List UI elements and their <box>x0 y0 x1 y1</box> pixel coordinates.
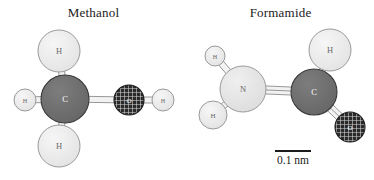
atom-h-f-h2: H <box>199 101 227 129</box>
scale-bar-label: 0.1 nm <box>258 154 328 167</box>
atom-o-f-o: O <box>335 112 365 142</box>
atom-label-m-o: O <box>126 97 131 105</box>
atom-label-f-o: O <box>347 124 352 132</box>
atom-label-f-h3: H <box>327 45 333 55</box>
atom-layer: CHHHOHNCOHHH <box>14 29 365 167</box>
atom-label-m-h2: H <box>56 141 62 151</box>
scale-bar: 0.1 nm <box>258 150 328 167</box>
atom-h-f-h1: H <box>205 46 225 66</box>
atom-h-m-h3: H <box>14 89 36 111</box>
atom-h-f-h3: H <box>309 29 351 71</box>
atom-o-m-o: O <box>114 85 144 115</box>
atom-h-m-h4: H <box>152 89 174 111</box>
atom-h-m-h1: H <box>38 30 80 72</box>
atom-n-f-n: N <box>220 66 266 112</box>
atom-c-f-c: C <box>291 69 337 115</box>
atom-label-f-h1: H <box>213 53 218 60</box>
molecular-figure: Methanol Formamide CHHHOHNCOHHH <box>0 0 374 180</box>
scale-bar-line <box>275 150 311 152</box>
atom-h-m-h2: H <box>38 125 80 167</box>
atom-label-m-h1: H <box>56 46 62 56</box>
atom-label-f-n: N <box>240 84 246 94</box>
atom-label-m-h3: H <box>23 97 28 104</box>
atom-label-m-h4: H <box>161 97 166 104</box>
atom-label-f-c: C <box>311 87 317 97</box>
atom-c-m-c: C <box>41 75 89 123</box>
atom-label-m-c: C <box>62 94 68 104</box>
atom-label-f-h2: H <box>210 112 215 120</box>
